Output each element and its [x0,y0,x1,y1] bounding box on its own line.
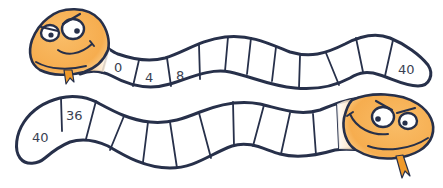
top-cell-40: 40 [398,62,415,77]
bottom-cell-36: 36 [66,108,83,123]
bottom-snake-head [344,94,434,178]
top-snake: 0 4 8 40 [30,9,431,88]
game-board: 0 4 8 40 [0,0,443,188]
top-snake-body [80,35,431,88]
tongue-icon [64,70,74,84]
top-cell-8: 8 [176,68,184,83]
top-cell-0: 0 [114,60,122,75]
tongue-icon [396,155,410,178]
bottom-snake: 40 36 [17,94,434,178]
top-cell-4: 4 [145,70,153,85]
bottom-cell-40: 40 [32,130,49,145]
eye-icon [399,113,417,129]
